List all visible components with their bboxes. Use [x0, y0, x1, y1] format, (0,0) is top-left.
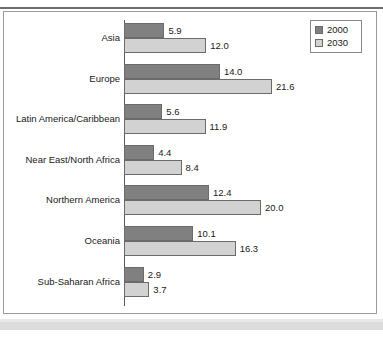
top-divider-rule — [0, 7, 383, 9]
bar-2030-asia — [124, 38, 206, 53]
category-label: Northern America — [2, 194, 120, 206]
legend-label: 2030 — [327, 37, 348, 48]
legend-item-2000: 2000 — [315, 24, 357, 35]
category-label: Near East/North Africa — [2, 154, 120, 166]
bar-value-label: 5.9 — [168, 24, 181, 37]
bar-2000-oceania — [124, 226, 193, 241]
legend-item-2030: 2030 — [315, 37, 357, 48]
bar-value-label: 14.0 — [224, 65, 243, 78]
legend-label: 2000 — [327, 24, 348, 35]
bar-value-label: 8.4 — [186, 161, 199, 174]
legend-swatch-icon — [315, 39, 323, 47]
bar-value-label: 20.0 — [265, 201, 284, 214]
bar-2030-europe — [124, 79, 272, 94]
clipped-top-text-artifact: . . . . — [0, 0, 383, 7]
bar-value-label: 11.9 — [210, 120, 228, 133]
category-axis-labels: AsiaEuropeLatin America/CaribbeanNear Ea… — [0, 20, 120, 306]
category-label: Sub-Saharan Africa — [2, 276, 120, 288]
bar-value-label: 3.7 — [153, 283, 166, 296]
bar-value-label: 10.1 — [197, 227, 216, 240]
bar-2030-latin-america-caribbean — [124, 119, 206, 134]
bar-2000-sub-saharan-africa — [124, 267, 144, 282]
category-label: Asia — [2, 32, 120, 44]
bar-value-label: 5.6 — [166, 105, 179, 118]
bar-value-label: 12.4 — [213, 186, 232, 199]
bar-value-label: 4.4 — [158, 146, 171, 159]
bar-2000-latin-america-caribbean — [124, 104, 162, 119]
bar-2000-northern-america — [124, 185, 209, 200]
bar-2030-near-east-north-africa — [124, 160, 182, 175]
category-label: Europe — [2, 73, 120, 85]
bar-2000-asia — [124, 23, 164, 38]
category-label: Oceania — [2, 235, 120, 247]
bar-value-label: 12.0 — [210, 39, 229, 52]
bar-2030-northern-america — [124, 200, 261, 215]
category-label: Latin America/Caribbean — [2, 113, 120, 125]
bar-2000-europe — [124, 64, 220, 79]
legend-swatch-icon — [315, 26, 323, 34]
bar-2030-sub-saharan-africa — [124, 282, 149, 297]
bar-2030-oceania — [124, 241, 236, 256]
bar-plot-area: 5.912.014.021.65.611.94.48.412.420.010.1… — [124, 20, 360, 306]
bar-value-label: 2.9 — [148, 268, 161, 281]
bar-2000-near-east-north-africa — [124, 145, 154, 160]
bar-value-label: 21.6 — [276, 80, 295, 93]
bar-value-label: 16.3 — [240, 242, 259, 255]
chart-legend: 20002030 — [310, 20, 362, 53]
bottom-band-highlight — [0, 319, 383, 322]
